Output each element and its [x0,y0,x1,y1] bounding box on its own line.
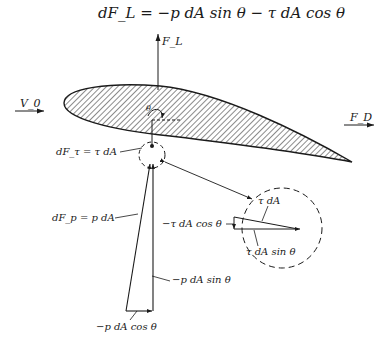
freestream-label: V_0 [20,98,40,109]
inset-shear-leader [262,206,268,221]
lift-equation: dF_L = −p dA sin θ − τ dA cos θ [98,6,345,21]
pressure-leader [115,214,138,218]
shear-force-label: dF_τ = τ dA [56,147,117,157]
inset-shear-cos-label: −τ dA cos θ [162,219,222,229]
pressure-cos-label: −p dA cos θ [96,322,157,332]
diagram-canvas [0,0,384,342]
inset-shear-label: τ dA [258,196,280,206]
lift-label: F_L [162,36,182,47]
pressure-vector [126,164,150,311]
drag-label: F_D [350,112,372,123]
surface-point [150,144,154,148]
cos-leader [130,311,137,320]
inset-shear-vector [234,217,298,229]
shear-leader [120,148,142,152]
theta-label: θ [146,105,151,113]
inset-shear-sin-label: τ dA sin θ [246,247,295,257]
pressure-sin-label: −p dA sin θ [172,275,231,285]
airfoil-force-diagram: dF_L = −p dA sin θ − τ dA cos θ F_L V_0 … [0,0,384,342]
pressure-force-label: dF_p = p dA [52,213,115,223]
inset-link-arrow [165,162,252,199]
inset-sin-leader [254,230,258,246]
sin-leader [152,276,170,281]
